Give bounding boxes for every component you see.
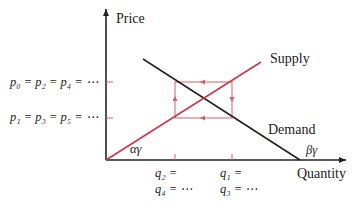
cobweb-arrows <box>173 80 235 121</box>
arrow-left-icon <box>200 80 205 85</box>
demand-curve <box>143 59 300 160</box>
supply-label: Supply <box>270 52 310 66</box>
quantity-level-low-1: q₂ = <box>155 167 177 180</box>
y-axis-label: Price <box>116 12 145 26</box>
x-axis-label: Quantity <box>297 167 346 181</box>
arrow-up-icon <box>173 96 178 101</box>
demand-label: Demand <box>268 123 315 137</box>
price-level-low: p₁ = p₃ = p₅ = ⋯ <box>10 111 99 124</box>
demand-intercept-label: βγ <box>306 144 317 157</box>
price-level-high: p₀ = p₂ = p₄ = ⋯ <box>10 76 99 89</box>
quantity-level-low-2: q₄ = ⋯ <box>155 183 193 196</box>
cobweb-path <box>175 82 232 118</box>
arrow-down-icon <box>230 97 235 102</box>
quantity-level-high-2: q₃ = ⋯ <box>220 183 258 196</box>
arrow-left-icon <box>200 116 205 121</box>
supply-intercept-label: αγ <box>130 143 142 156</box>
quantity-level-high-1: q₁ = <box>220 167 242 180</box>
